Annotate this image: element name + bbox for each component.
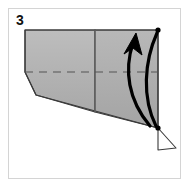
origami-diagram (0, 0, 191, 196)
figure-root: 3 (0, 0, 191, 196)
vertex-dot-top-right (155, 27, 160, 32)
vertex-dot-bottom-right (155, 125, 160, 130)
paper-corner-flap (158, 128, 176, 150)
paper-left-panel (25, 30, 95, 112)
